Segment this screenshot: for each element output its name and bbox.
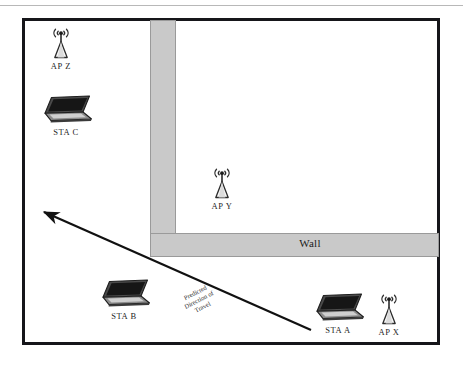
laptop-icon: [94, 278, 154, 310]
node-ap-z[interactable]: AP Z: [48, 26, 74, 71]
laptop-icon: [36, 94, 96, 126]
node-sta-b[interactable]: STA B: [94, 278, 154, 321]
top-divider-rule: [0, 5, 463, 6]
node-label-sta-a: STA A: [308, 325, 368, 335]
node-label-sta-b: STA B: [94, 311, 154, 321]
node-label-sta-c: STA C: [36, 127, 96, 137]
laptop-icon: [308, 292, 368, 324]
node-ap-y[interactable]: AP Y: [209, 166, 235, 211]
node-label-ap-z: AP Z: [48, 61, 74, 71]
node-sta-a[interactable]: STA A: [308, 292, 368, 335]
access-point-icon: [209, 166, 235, 200]
wall-label: Wall: [280, 237, 340, 249]
node-label-ap-x: AP X: [376, 327, 402, 337]
access-point-icon: [48, 26, 74, 60]
access-point-icon: [376, 292, 402, 326]
node-label-ap-y: AP Y: [209, 201, 235, 211]
wall-vertical-segment: [150, 20, 176, 242]
diagram-canvas: Wall AP Z STA C: [0, 0, 463, 367]
node-ap-x[interactable]: AP X: [376, 292, 402, 337]
node-sta-c[interactable]: STA C: [36, 94, 96, 137]
